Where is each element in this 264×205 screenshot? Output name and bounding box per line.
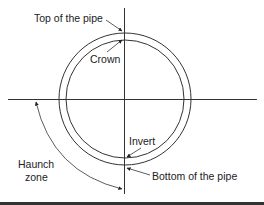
arrow-top-of-pipe xyxy=(106,20,122,31)
label-bottom-of-pipe: Bottom of the pipe xyxy=(152,170,237,182)
bottom-rule xyxy=(0,202,264,205)
label-invert: Invert xyxy=(129,135,155,147)
arrow-haunch-zone xyxy=(36,102,122,189)
pipe-cross-section-diagram: Top of the pipe Crown Invert Bottom of t… xyxy=(0,0,264,205)
label-haunch: Haunch xyxy=(18,158,54,170)
label-zone: zone xyxy=(25,171,48,183)
label-crown: Crown xyxy=(90,53,121,65)
arrow-bottom-of-pipe xyxy=(127,168,150,175)
arrow-invert xyxy=(127,148,141,157)
label-top-of-pipe: Top of the pipe xyxy=(34,12,103,24)
